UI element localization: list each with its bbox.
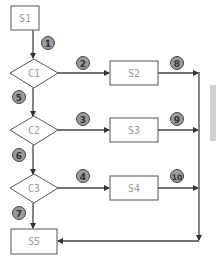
node-s3-label: S3 (128, 125, 140, 136)
badge-4-label: 4 (80, 172, 86, 182)
node-s5-label: S5 (28, 236, 40, 247)
node-c1-label: C1 (28, 68, 40, 79)
badge-5-label: 5 (16, 93, 22, 103)
badge-1-label: 1 (45, 39, 51, 49)
badge-7-label: 7 (16, 209, 22, 219)
badge-3-label: 3 (80, 115, 86, 125)
badge-6-label: 6 (16, 151, 22, 161)
node-c2-label: C2 (28, 125, 40, 136)
node-c3-label: C3 (28, 183, 40, 194)
node-s4-label: S4 (128, 183, 140, 194)
node-s2-label: S2 (128, 68, 140, 79)
badge-8-label: 8 (174, 59, 180, 69)
side-bar (210, 85, 216, 141)
node-s1-label: S1 (19, 13, 31, 24)
badge-10-label: 10 (172, 173, 182, 182)
badge-9-label: 9 (174, 115, 180, 125)
flowchart: S1 C1 S2 C2 S3 C3 S4 S5 1 2 3 4 5 6 7 8 … (0, 0, 220, 265)
badge-2-label: 2 (80, 59, 86, 69)
